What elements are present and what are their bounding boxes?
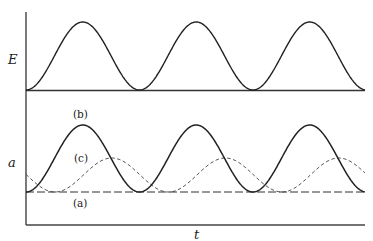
curve-b-label: (b)	[73, 108, 88, 120]
e-axis-label: E	[7, 52, 18, 67]
curve-e	[26, 22, 365, 90]
curve-c-label: (c)	[74, 152, 88, 164]
t-axis-label: t	[194, 227, 200, 241]
figure: E a t (b) (c) (a)	[0, 0, 373, 241]
curve-a-label: (a)	[73, 197, 87, 209]
a-axis-label: a	[8, 155, 16, 170]
